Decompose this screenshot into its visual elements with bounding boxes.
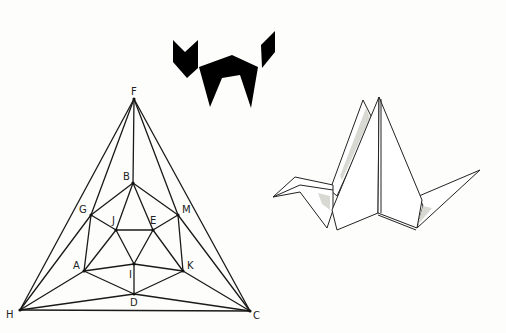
vertex-M [176,213,179,216]
edge-FB [133,99,134,183]
edge-EK [153,230,183,271]
vertex-A [82,269,85,272]
edge-HG [20,215,91,310]
cat-tail [261,31,275,68]
vertex-G [89,213,92,216]
cat-body [199,55,258,108]
edge-CK [183,271,250,311]
edge-ME [153,215,178,230]
vertex-label-I: I [129,269,132,280]
edge-HA [20,271,84,310]
vertex-label-F: F [131,86,137,97]
edge-JI [116,230,134,264]
edge-KD [134,271,183,294]
edge-FC [134,99,250,311]
vertex-label-H: H [6,309,14,320]
vertex-label-C: C [253,310,260,321]
vertex-H [18,308,21,311]
vertex-label-M: M [182,204,191,215]
vertex-label-A: A [73,260,80,271]
vertex-K [181,269,184,272]
edge-AI [84,264,134,271]
crane-body-right [378,97,422,228]
edge-EI [134,230,153,264]
edge-MK [178,215,183,271]
vertex-C [248,309,251,312]
vertex-label-J: J [111,215,115,226]
vertex-J [114,228,117,231]
edge-CD [134,294,250,311]
edge-FM [134,99,178,215]
edge-IK [134,264,183,271]
origami-crane [273,97,480,230]
edge-HC [20,310,250,311]
vertex-F [132,97,135,100]
crane-tail [417,170,480,228]
vertex-label-E: E [150,215,156,226]
crane-body-left [332,97,379,230]
edge-HD [20,294,134,310]
cat-silhouette [173,31,275,108]
edge-AD [84,271,134,294]
graph-edges [20,99,250,311]
graph-labels: FBGMJEAIKDHC [6,86,260,321]
vertex-I [132,262,135,265]
edge-FH [20,99,134,310]
cat-head [173,40,198,78]
vertex-D [132,292,135,295]
vertex-label-D: D [130,297,138,308]
illustration-canvas: FBGMJEAIKDHC [0,0,506,333]
vertex-E [151,228,154,231]
vertex-label-B: B [123,171,130,182]
vertex-B [131,181,134,184]
vertex-label-G: G [79,204,87,215]
vertex-label-K: K [187,260,194,271]
